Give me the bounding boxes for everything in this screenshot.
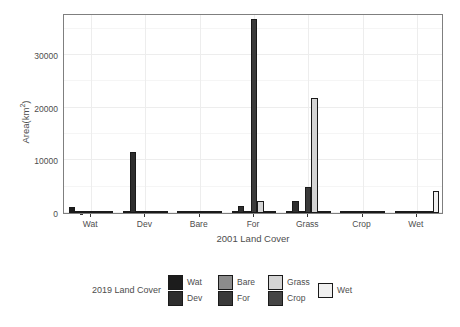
x-tick-label: Dev: [137, 219, 152, 229]
legend-title: 2019 Land Cover: [92, 285, 161, 295]
bar-group: [69, 15, 114, 213]
x-tick-label: Wat: [83, 219, 98, 229]
x-axis-title: 2001 Land Cover: [63, 233, 443, 244]
x-tick-mark: [307, 214, 308, 217]
legend-swatch-icon: [168, 291, 183, 306]
bar-chart: Area(km2) 0100002000030000 WatDevBareFor…: [0, 0, 460, 327]
legend-swatch-icon: [268, 291, 283, 306]
x-tick-label: Crop: [352, 219, 370, 229]
x-tick-mark: [144, 214, 145, 217]
bar: [378, 211, 384, 213]
plot-panel: [63, 14, 443, 214]
legend-entry-crop[interactable]: Crop: [268, 290, 313, 306]
x-tick-mark: [416, 214, 417, 217]
bar: [311, 98, 317, 213]
legend-column: Wet: [318, 282, 363, 298]
legend-label: Dev: [187, 293, 213, 303]
x-tick-label: Grass: [296, 219, 319, 229]
legend-column: WatDev: [168, 274, 213, 306]
x-tick-mark: [362, 214, 363, 217]
legend-swatch-icon: [168, 275, 183, 290]
bar: [433, 191, 439, 213]
legend-swatch-icon: [218, 291, 233, 306]
legend-entry-dev[interactable]: Dev: [168, 290, 213, 306]
y-tick-label: 0: [20, 210, 58, 218]
x-tick-label: Bare: [190, 219, 208, 229]
legend-entry-for[interactable]: For: [218, 290, 263, 306]
x-tick-mark: [90, 214, 91, 217]
bar-group: [286, 15, 331, 213]
bar: [161, 211, 167, 213]
legend-entry-wet[interactable]: Wet: [318, 282, 363, 298]
legend-label: Crop: [287, 293, 313, 303]
x-tick-label: For: [247, 219, 260, 229]
legend-swatch-icon: [318, 283, 333, 298]
y-axis-ticks: 0100002000030000: [20, 14, 58, 214]
bar: [130, 152, 136, 213]
bar-group: [123, 15, 168, 213]
legend-column: GrassCrop: [268, 274, 313, 306]
x-tick-label: Wet: [408, 219, 423, 229]
legend: 2019 Land Cover WatDevBareForGrassCropWe…: [0, 274, 460, 306]
bar-group: [232, 15, 277, 213]
legend-swatch-icon: [268, 275, 283, 290]
bar: [216, 211, 222, 213]
x-axis-ticks: WatDevBareForGrassCropWet: [63, 219, 443, 231]
legend-entries: WatDevBareForGrassCropWet: [168, 274, 368, 306]
legend-entry-bare[interactable]: Bare: [218, 274, 263, 290]
legend-entry-grass[interactable]: Grass: [268, 274, 313, 290]
legend-label: Bare: [237, 277, 263, 287]
y-tick-label: 30000: [20, 52, 58, 60]
x-axis-tick-marks: [63, 214, 443, 218]
legend-column: BareFor: [218, 274, 263, 306]
legend-swatch-icon: [218, 275, 233, 290]
bar-group: [177, 15, 222, 213]
y-tick-label: 10000: [20, 157, 58, 165]
bar: [251, 19, 257, 213]
bar: [324, 211, 330, 213]
x-tick-mark: [253, 214, 254, 217]
bar-group: [395, 15, 440, 213]
y-tick-label: 20000: [20, 105, 58, 113]
bar: [107, 211, 113, 213]
legend-label: For: [237, 293, 263, 303]
x-tick-mark: [199, 214, 200, 217]
bar-group: [340, 15, 385, 213]
bar: [270, 211, 276, 213]
legend-entry-wat[interactable]: Wat: [168, 274, 213, 290]
legend-label: Wat: [187, 277, 213, 287]
legend-label: Wet: [337, 285, 363, 295]
legend-label: Grass: [287, 277, 313, 287]
